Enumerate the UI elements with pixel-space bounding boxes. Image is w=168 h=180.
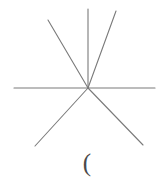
left-parenthesis-label: ( — [0, 148, 168, 178]
ray-upper-left — [48, 20, 88, 88]
figure-canvas: ( — [0, 0, 168, 180]
ray-lower-left — [35, 88, 88, 146]
ray-lower-right — [88, 88, 143, 145]
ray-group — [14, 9, 155, 146]
ray-upper-right — [88, 11, 116, 88]
